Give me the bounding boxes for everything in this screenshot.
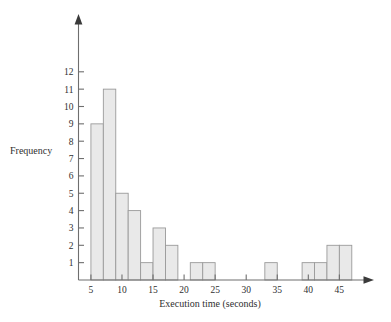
- x-tick-label: 25: [210, 285, 220, 295]
- y-tick-label: 11: [64, 85, 73, 95]
- histogram-bar: [339, 245, 351, 280]
- y-tick-label: 5: [69, 189, 74, 199]
- histogram-bar: [116, 193, 128, 280]
- x-tick-label: 35: [273, 285, 283, 295]
- histogram-bar: [265, 263, 277, 280]
- histogram-bar: [128, 211, 140, 280]
- histogram-bar: [327, 245, 339, 280]
- bars-group: [91, 89, 352, 280]
- histogram-bar: [153, 228, 165, 280]
- x-axis-title: Execution time (seconds): [159, 298, 261, 310]
- y-tick-label: 8: [69, 137, 74, 147]
- y-tick-label: 2: [69, 241, 74, 251]
- histogram-bar: [103, 89, 115, 280]
- histogram-bar: [91, 124, 103, 280]
- histogram-bar: [141, 263, 153, 280]
- histogram-bar: [190, 263, 202, 280]
- x-tick-label: 10: [117, 285, 127, 295]
- histogram-bar: [315, 263, 327, 280]
- x-tick-label: 45: [335, 285, 345, 295]
- x-tick-label: 40: [304, 285, 314, 295]
- y-tick-label: 10: [64, 102, 74, 112]
- x-tick-label: 15: [148, 285, 158, 295]
- y-ticks-group: 123456789101112: [64, 67, 84, 268]
- y-axis-title: Frequency: [10, 145, 52, 156]
- y-axis-arrow-icon: [75, 14, 83, 25]
- y-tick-label: 1: [69, 258, 74, 268]
- histogram-bar: [165, 245, 177, 280]
- x-tick-label: 5: [89, 285, 94, 295]
- histogram-bar: [203, 263, 215, 280]
- y-tick-label: 9: [69, 119, 74, 129]
- x-tick-label: 20: [179, 285, 189, 295]
- y-tick-label: 12: [64, 67, 74, 77]
- x-axis-arrow-icon: [364, 276, 375, 283]
- y-tick-label: 4: [69, 206, 74, 216]
- y-tick-label: 3: [69, 223, 74, 233]
- histogram-figure: 123456789101112 51015202530354045 Execut…: [0, 0, 391, 322]
- y-tick-label: 6: [69, 171, 74, 181]
- y-tick-label: 7: [69, 154, 74, 164]
- histogram-plot: 123456789101112 51015202530354045 Execut…: [0, 0, 391, 322]
- x-tick-label: 30: [241, 285, 251, 295]
